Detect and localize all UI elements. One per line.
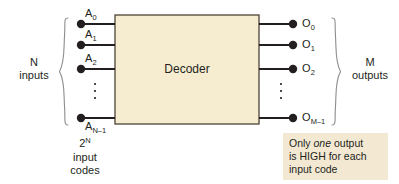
input-group-caption: N inputs [8, 56, 60, 82]
input-port-sub-an: N–1 [92, 126, 106, 135]
input-port-sub-a1: 1 [92, 34, 96, 43]
input-group-caption-line2: inputs [8, 69, 60, 82]
output-port-label-o2: O2 [302, 62, 315, 75]
output-group-caption-line2: outputs [344, 69, 396, 82]
input-ellipsis-dot [94, 90, 96, 92]
output-port-label-o0: O0 [302, 17, 315, 30]
input-port-label-a1: A1 [85, 28, 97, 41]
output-terminal-om [289, 114, 297, 122]
note-line-1: Only one output [289, 137, 383, 150]
output-port-name-o1: O [302, 38, 311, 50]
note-line-1-emphasis: one [314, 137, 332, 149]
output-port-sub-om: M–1 [311, 117, 326, 126]
output-group-caption: M outputs [344, 56, 396, 82]
input-port-label-a0: A0 [85, 7, 97, 20]
input-terminal-a0 [77, 20, 85, 28]
input-codes-line2: input [55, 151, 115, 164]
input-port-sub-a2: 2 [92, 58, 96, 67]
input-ellipsis-dot [94, 97, 96, 99]
output-terminal-o2 [289, 65, 297, 73]
input-terminal-a1 [77, 41, 85, 49]
input-codes-line3: codes [55, 164, 115, 177]
input-codes-caption: 2N input codes [55, 137, 115, 177]
note-line-3: input code [289, 163, 383, 176]
note-line-2: is HIGH for each [289, 150, 383, 163]
input-group-caption-line1: N [8, 56, 60, 69]
input-codes-exponent: N [85, 136, 90, 145]
output-ellipsis-dot [280, 83, 282, 85]
output-port-name-o0: O [302, 17, 311, 29]
input-port-sub-a0: 0 [92, 13, 96, 22]
output-ellipsis-dot [280, 97, 282, 99]
input-group-brace [60, 18, 69, 125]
output-group-caption-line1: M [344, 56, 396, 69]
output-ellipsis-dot [280, 90, 282, 92]
output-port-sub-o1: 1 [311, 44, 315, 53]
output-port-name-om: O [302, 111, 311, 123]
decoder-block-diagram: Decoder A0 A1 A2 AN–1 O0 O1 O2 OM–1 N in… [0, 0, 399, 184]
output-terminal-o0 [289, 20, 297, 28]
input-terminal-an [77, 114, 85, 122]
input-port-label-an: AN–1 [85, 120, 106, 133]
note-line-1-post: output [331, 137, 363, 149]
note-line-1-pre: Only [289, 137, 314, 149]
output-port-label-om: OM–1 [302, 111, 325, 124]
output-port-name-o2: O [302, 62, 311, 74]
input-port-label-a2: A2 [85, 52, 97, 65]
output-port-sub-o0: 0 [311, 23, 315, 32]
output-port-label-o1: O1 [302, 38, 315, 51]
input-ellipsis-dot [94, 83, 96, 85]
output-port-sub-o2: 2 [311, 68, 315, 77]
output-group-brace [332, 18, 341, 125]
output-terminal-o1 [289, 41, 297, 49]
input-codes-power: 2N [55, 137, 115, 151]
note-callout-box: Only one output is HIGH for each input c… [283, 133, 388, 180]
decoder-block-label: Decoder [115, 62, 259, 76]
input-terminal-a2 [77, 65, 85, 73]
